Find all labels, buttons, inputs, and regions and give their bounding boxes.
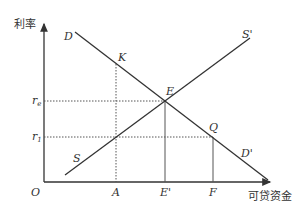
loanable-funds-diagram: 利率 可贷资金 O D D' S S' K E Q re r1 A E' F [0,0,306,210]
demand-curve [75,32,268,180]
a-label: A [111,186,120,199]
demand-start-label: D [63,30,73,43]
supply-curve [65,38,250,175]
supply-end-label: S' [242,28,253,41]
r1-label: r1 [32,130,42,144]
origin-label: O [31,186,40,199]
supply-start-label: S [73,152,81,165]
demand-end-label: D' [240,147,253,160]
e-prime-label: E' [159,186,171,199]
point-k-label: K [117,51,127,64]
x-axis-label: 可贷资金 [248,189,292,203]
re-label: re [32,94,41,108]
f-label: F [208,186,217,199]
point-e-label: E [165,85,174,98]
y-axis-label: 利率 [14,17,36,31]
point-q-label: Q [209,121,218,134]
